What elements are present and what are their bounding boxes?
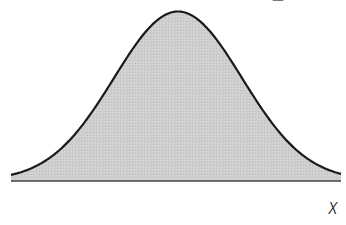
cropped-title-fragment <box>272 0 284 1</box>
shaded-area <box>11 12 341 182</box>
x-axis-label: X <box>328 199 337 219</box>
bell-curve-chart <box>0 0 346 225</box>
